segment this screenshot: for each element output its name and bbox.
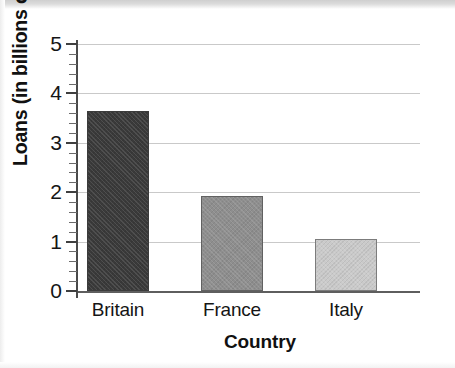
- y-axis-title: Loans (in billions of dollars): [5, 0, 35, 179]
- y-tick-major: [66, 142, 77, 144]
- y-tick-major: [66, 241, 77, 243]
- bar-italy: [315, 239, 377, 291]
- x-axis-title: Country: [130, 331, 390, 353]
- y-tick-minor: [69, 212, 77, 213]
- y-tick-minor: [69, 251, 77, 252]
- bar-france: [201, 196, 263, 291]
- y-tick-minor: [69, 113, 77, 114]
- y-tick-minor: [69, 123, 77, 124]
- bar-texture: [88, 112, 148, 290]
- y-tick-minor: [69, 202, 77, 203]
- y-tick-label: 2: [40, 181, 62, 202]
- x-tick-label-britain: Britain: [58, 299, 178, 321]
- y-tick-minor: [69, 271, 77, 272]
- y-tick-label: 4: [40, 82, 62, 103]
- bar-texture: [316, 240, 376, 290]
- y-tick-label: 3: [40, 132, 62, 153]
- bar-chart-figure: Loans (in billions of dollars) 012345 Br…: [0, 0, 455, 368]
- y-tick-minor: [69, 232, 77, 233]
- y-tick-minor: [69, 74, 77, 75]
- bar-britain: [87, 111, 149, 291]
- y-tick-minor: [69, 261, 77, 262]
- y-tick-major: [66, 191, 77, 193]
- x-axis-line: [78, 291, 420, 293]
- bar-texture: [202, 197, 262, 290]
- y-tick-minor: [69, 182, 77, 183]
- y-tick-minor: [69, 222, 77, 223]
- y-tick-minor: [69, 163, 77, 164]
- x-tick-label-italy: Italy: [286, 299, 406, 321]
- y-tick-minor: [69, 281, 77, 282]
- y-tick-major: [66, 92, 77, 94]
- y-tick-minor: [69, 133, 77, 134]
- y-tick-minor: [69, 54, 77, 55]
- y-tick-label: 1: [40, 231, 62, 252]
- x-tick-label-france: France: [172, 299, 292, 321]
- y-tick-major: [66, 43, 77, 45]
- y-tick-label: 5: [40, 33, 62, 54]
- y-tick-minor: [69, 64, 77, 65]
- y-tick-minor: [69, 172, 77, 173]
- plot-area: [78, 44, 420, 291]
- y-tick-major: [66, 290, 77, 292]
- y-tick-minor: [69, 153, 77, 154]
- y-tick-label: 0: [40, 280, 62, 301]
- y-tick-minor: [69, 103, 77, 104]
- y-tick-minor: [69, 84, 77, 85]
